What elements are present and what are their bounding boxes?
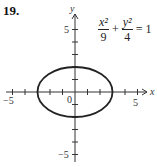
origin-label: 0 — [67, 94, 72, 105]
y-axis-label: y — [69, 3, 75, 14]
x-min-label: −5 — [3, 95, 14, 106]
equation: x² 9 + y² 4 = 1 — [98, 16, 151, 43]
equals-one: = 1 — [136, 22, 152, 37]
y-min-label: −5 — [58, 149, 69, 160]
x-max-label: 5 — [133, 97, 138, 108]
plus-sign: + — [112, 22, 119, 37]
fraction-x: x² 9 — [98, 16, 109, 43]
y-max-label: 5 — [64, 24, 69, 35]
fraction-y: y² 4 — [122, 16, 133, 43]
x-axis-label: x — [149, 86, 155, 97]
